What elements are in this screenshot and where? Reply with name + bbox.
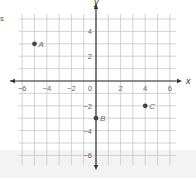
x-tick-label: −4 bbox=[43, 84, 52, 93]
y-tick-label: −6 bbox=[83, 151, 92, 160]
x-tick-label: 6 bbox=[168, 84, 172, 93]
x-tick-label: 2 bbox=[119, 84, 123, 93]
coordinate-plane: xy−6−4−20246−6−4−224ABC bbox=[0, 0, 196, 178]
coordinate-plane-figure: s xy−6−4−20246−6−4−224ABC bbox=[0, 0, 196, 178]
y-tick-label: 4 bbox=[88, 27, 92, 36]
data-point-c bbox=[143, 103, 148, 108]
x-axis-right-arrow-icon bbox=[177, 79, 182, 83]
data-point-a bbox=[32, 41, 37, 46]
x-tick-label: 0 bbox=[88, 84, 92, 93]
y-axis-label: y bbox=[93, 0, 99, 7]
x-tick-label: −6 bbox=[18, 84, 27, 93]
x-axis-left-arrow-icon bbox=[10, 79, 15, 83]
point-label-c: C bbox=[149, 102, 155, 111]
point-label-a: A bbox=[38, 40, 44, 49]
x-tick-label: −2 bbox=[67, 84, 76, 93]
y-tick-label: −4 bbox=[83, 127, 92, 136]
y-tick-label: 2 bbox=[88, 52, 92, 61]
x-tick-label: 4 bbox=[143, 84, 147, 93]
y-axis-bottom-arrow-icon bbox=[94, 165, 98, 170]
y-tick-label: −2 bbox=[83, 102, 92, 111]
point-label-b: B bbox=[100, 114, 106, 123]
data-point-b bbox=[94, 116, 99, 121]
x-axis-label: x bbox=[185, 76, 191, 86]
